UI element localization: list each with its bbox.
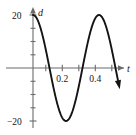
y-tick-label-neg20: −20 [7,117,22,127]
y-tick-label-20: 20 [12,11,22,21]
y-axis-label: d [38,7,44,18]
x-axis-arrow-icon [118,65,124,71]
chart-figure: d t 20 −20 0.2 0.4 [0,0,136,135]
x-axis-label: t [127,63,130,74]
y-axis-arrow-icon [30,7,36,14]
x-tick-label-0p2: 0.2 [56,74,68,84]
x-tick-label-0p4: 0.4 [89,74,101,84]
curve-arrow-icon [115,80,121,89]
sinusoid-plot: d t 20 −20 0.2 0.4 [0,0,136,135]
